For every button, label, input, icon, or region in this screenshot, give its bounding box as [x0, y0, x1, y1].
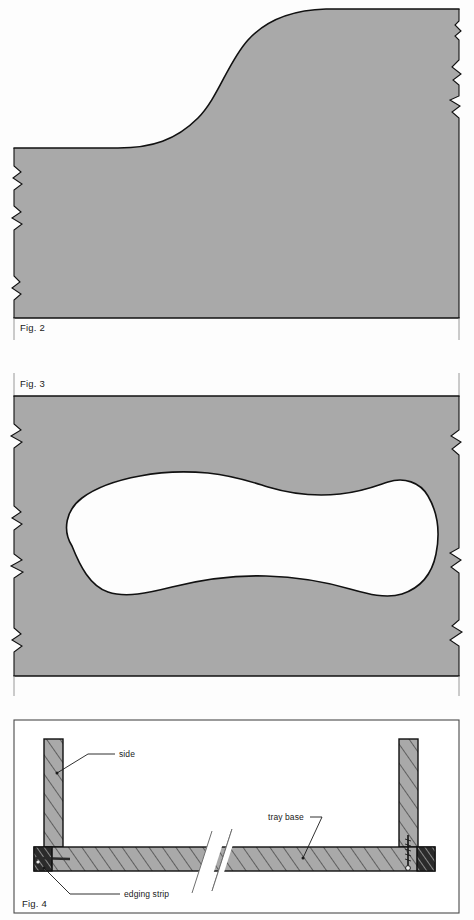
fig3-material-fill — [11, 396, 462, 676]
figure-2: Fig. 2 — [0, 0, 474, 345]
fig4-base-slab — [34, 847, 435, 871]
fig4-right-edging-strip — [417, 847, 435, 871]
fig4-left-edging-dot — [36, 860, 39, 863]
fig4-caption: Fig. 4 — [22, 898, 47, 909]
drawing-sheet: Fig. 2 Fig. 3 — [0, 0, 474, 920]
figure-3: Fig. 3 — [0, 370, 474, 700]
callout-edging-strip-label: edging strip — [124, 889, 169, 899]
fig4-frame — [14, 720, 459, 913]
fig2-body — [12, 9, 461, 318]
figure-4: side tray base edging strip Fig. 4 — [0, 712, 474, 920]
fig4-right-upright — [399, 739, 418, 847]
fig3-caption: Fig. 3 — [20, 378, 45, 389]
fig4-left-edging-tongue — [36, 858, 70, 859]
fig4-left-upright — [44, 739, 63, 847]
fig2-caption: Fig. 2 — [20, 322, 45, 333]
fig3-body — [11, 396, 462, 676]
callout-side-label: side — [119, 749, 135, 759]
callout-tray-base-label: tray base — [268, 812, 304, 822]
